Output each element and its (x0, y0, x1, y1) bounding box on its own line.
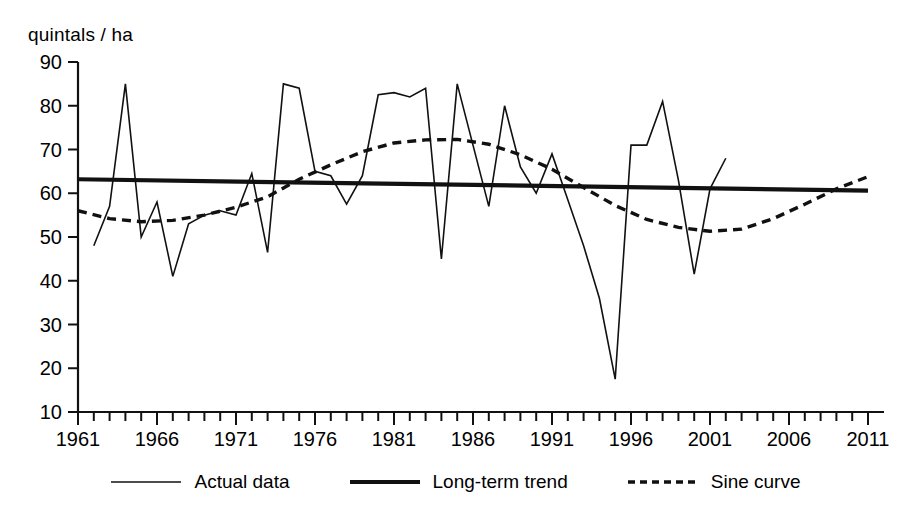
legend-item-long-term-trend[interactable]: Long-term trend (348, 471, 568, 493)
legend-label: Actual data (194, 471, 289, 493)
x-axis-tick-label: 1991 (530, 428, 575, 450)
y-axis-tick-label: 70 (40, 139, 62, 161)
series-line-long-term-trend (78, 179, 868, 190)
y-axis-tick-label: 40 (40, 270, 62, 292)
x-axis-tick-label: 1996 (609, 428, 654, 450)
y-axis-tick-label: 50 (40, 226, 62, 248)
y-axis-ticks: 908070605040302010 (40, 51, 78, 423)
x-axis-ticks: 1961196619711976198119861991199620012006… (56, 412, 890, 450)
chart-figure: quintals / ha 908070605040302010 1961196… (0, 0, 910, 521)
x-axis-tick-label: 1986 (451, 428, 496, 450)
legend-swatch-thin-solid (109, 475, 183, 489)
x-axis-tick-label: 1976 (293, 428, 338, 450)
y-axis-tick-label: 10 (40, 401, 62, 423)
legend-item-actual-data[interactable]: Actual data (109, 471, 289, 493)
x-axis-tick-label: 1961 (56, 428, 101, 450)
x-axis-tick-label: 1966 (135, 428, 180, 450)
y-axis-tick-label: 20 (40, 357, 62, 379)
chart-legend: Actual dataLong-term trendSine curve (0, 462, 910, 502)
y-axis-tick-label: 30 (40, 314, 62, 336)
legend-label: Sine curve (711, 471, 801, 493)
series-line-actual-data (94, 84, 726, 379)
y-axis-tick-label: 90 (40, 51, 62, 73)
legend-label: Long-term trend (433, 471, 568, 493)
x-axis-tick-label: 2001 (688, 428, 733, 450)
y-axis-tick-label: 60 (40, 182, 62, 204)
chart-plot-area: 908070605040302010 196119661971197619811… (0, 0, 910, 460)
y-axis-tick-label: 80 (40, 95, 62, 117)
chart-series-layer (78, 84, 868, 379)
x-axis-tick-label: 1971 (214, 428, 259, 450)
legend-swatch-thick-solid (348, 475, 422, 489)
legend-item-sine-curve[interactable]: Sine curve (626, 471, 801, 493)
x-axis-tick-label: 1981 (372, 428, 417, 450)
x-axis-tick-label: 2011 (846, 428, 889, 450)
y-axis-unit-label: quintals / ha (28, 24, 133, 46)
x-axis-tick-label: 2006 (767, 428, 812, 450)
legend-swatch-dashed (626, 475, 700, 489)
